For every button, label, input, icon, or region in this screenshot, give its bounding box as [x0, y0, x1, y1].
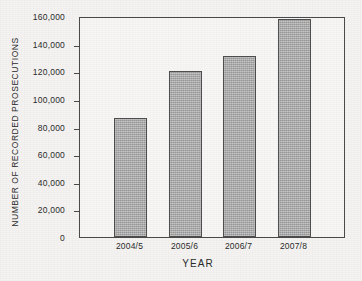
y-axis-tick-label: 120,000 [33, 67, 65, 77]
y-axis-tick-label: 60,000 [38, 150, 65, 160]
y-axis-tick [74, 73, 80, 74]
bar-2004-5 [114, 118, 147, 237]
x-axis-title: YEAR [0, 258, 362, 269]
y-axis-tick [74, 101, 80, 102]
y-axis-tick [74, 156, 80, 157]
y-axis-tick [74, 46, 80, 47]
bar-2007-8 [278, 19, 311, 237]
y-axis-tick-label: 160,000 [33, 12, 65, 22]
y-axis-tick-label: 140,000 [33, 40, 65, 50]
y-axis-tick-label: 40,000 [38, 178, 65, 188]
y-axis-tick-labels: 020,00040,00060,00080,000100,000120,0001… [0, 0, 74, 281]
x-axis-tick-label: 2004/5 [116, 241, 143, 251]
y-axis-tick [74, 184, 80, 185]
bar-2006-7 [223, 56, 256, 237]
x-axis-tick-label: 2006/7 [225, 241, 252, 251]
x-axis-tick-label: 2005/6 [171, 241, 198, 251]
bar-chart-figure: NUMBER OF RECORDED PROSECUTIONS 020,0004… [0, 0, 362, 281]
y-axis-tick-label: 100,000 [33, 95, 65, 105]
y-axis-tick [74, 211, 80, 212]
y-axis-tick [74, 129, 80, 130]
x-axis-tick-label: 2007/8 [280, 241, 307, 251]
x-axis-title-text: YEAR [182, 258, 214, 269]
y-axis-tick-label: 80,000 [38, 123, 65, 133]
bar-2005-6 [169, 71, 202, 237]
y-axis-tick-label: 20,000 [38, 205, 65, 215]
plot-area [79, 17, 345, 238]
x-axis-tick-labels: 2004/52005/62006/72007/8 [0, 241, 362, 257]
